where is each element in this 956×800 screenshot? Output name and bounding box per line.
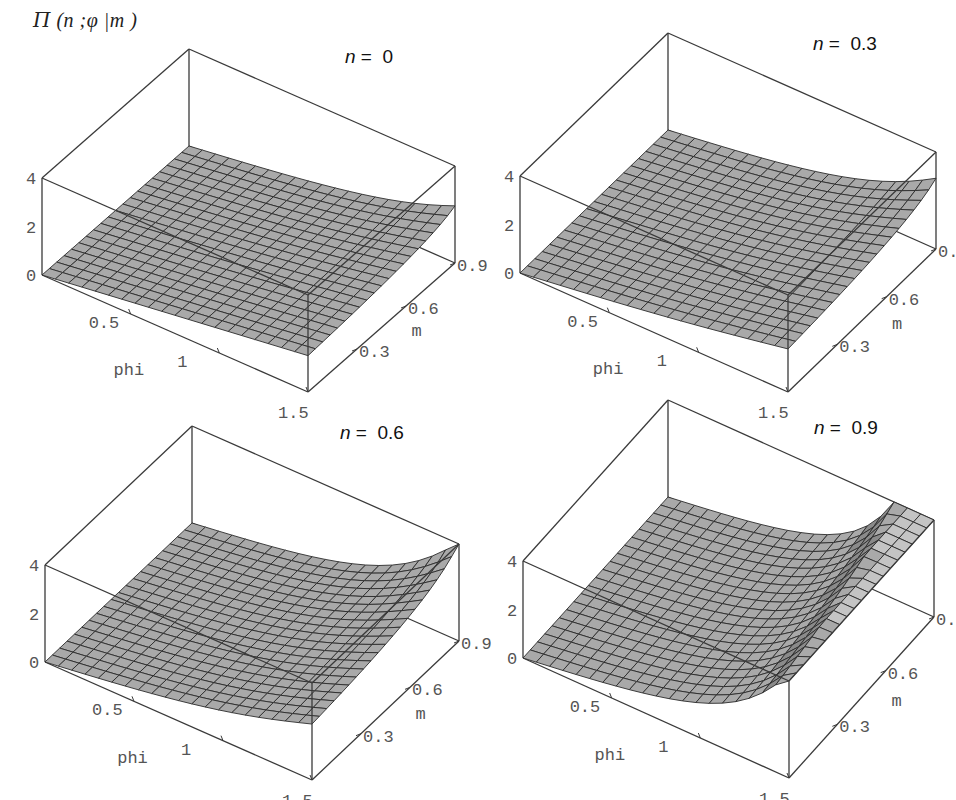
z-tick-label: 2 xyxy=(504,217,514,236)
y-axis-label: m xyxy=(892,315,902,334)
plot-canvas: 0240.511.50.30.60.9phim xyxy=(478,0,956,400)
x-tick-label: 0.5 xyxy=(570,698,601,717)
plot-canvas: 0240.511.50.30.60.9phim xyxy=(0,400,478,800)
z-tick-label: 4 xyxy=(26,170,36,189)
panel-label: n = 0.3 xyxy=(813,33,877,55)
y-tick-label: 0.9 xyxy=(938,243,956,262)
x-axis-label: phi xyxy=(117,749,148,768)
x-tick-label: 1 xyxy=(181,741,191,760)
x-tick-label: 1 xyxy=(177,353,187,372)
panel-label: n = 0.6 xyxy=(340,422,404,444)
surface-mesh xyxy=(523,497,934,703)
box-edge xyxy=(42,49,189,178)
surface-plot-n0: 0240.511.50.30.60.9phim n = 0 xyxy=(0,0,478,400)
y-axis-label: m xyxy=(416,705,426,724)
x-tick-label: 1 xyxy=(658,738,668,757)
x-tick-label: 0.5 xyxy=(567,313,598,332)
figure: Π (n ;φ |m ) 0240.511.50.30.60.9phim n =… xyxy=(0,0,956,800)
box-edge xyxy=(668,33,936,152)
y-tick-label: 0.6 xyxy=(412,681,443,700)
z-tick-label: 0 xyxy=(29,654,39,673)
panel-label: n = 0 xyxy=(345,46,393,68)
plot-canvas: 0240.511.50.30.60.9phim xyxy=(0,0,478,400)
y-tick-label: 0.6 xyxy=(888,665,919,684)
y-tick-label: 0.6 xyxy=(408,300,439,319)
y-tick-label: 0.6 xyxy=(889,291,920,310)
x-tick-label: 1.5 xyxy=(282,792,313,800)
x-axis-label: phi xyxy=(114,361,145,380)
x-tick-label: 1.5 xyxy=(759,790,790,800)
box-edge xyxy=(192,426,459,544)
x-axis-label: phi xyxy=(595,746,626,765)
x-axis-label: phi xyxy=(593,360,624,379)
y-tick-label: 0.9 xyxy=(936,611,956,630)
surface-mesh xyxy=(45,523,459,724)
z-tick-label: 2 xyxy=(26,219,36,238)
z-tick-label: 0 xyxy=(507,650,517,669)
y-tick-label: 0.3 xyxy=(839,718,870,737)
surface-plot-n03: 0240.511.50.30.60.9phim n = 0.3 xyxy=(478,0,956,400)
box-edge xyxy=(189,49,455,166)
y-tick-label: 0.3 xyxy=(839,338,870,357)
y-axis-label: m xyxy=(892,692,902,711)
z-tick-label: 2 xyxy=(29,606,39,625)
z-tick-label: 2 xyxy=(507,602,517,621)
x-tick-label: 1 xyxy=(657,352,667,371)
surface-plot-n06: 0240.511.50.30.60.9phim n = 0.6 xyxy=(0,400,478,800)
x-tick-label: 0.5 xyxy=(89,314,120,333)
y-axis-label: m xyxy=(412,322,422,341)
z-tick-label: 0 xyxy=(504,265,514,284)
surface-plot-n09: 0240.511.50.30.60.9phim n = 0.9 xyxy=(478,400,956,800)
z-tick-label: 4 xyxy=(507,553,517,572)
x-tick-label: 0.5 xyxy=(92,701,123,720)
y-tick-label: 0.3 xyxy=(359,343,390,362)
z-tick-label: 0 xyxy=(26,267,36,286)
y-tick-label: 0.3 xyxy=(363,728,394,747)
plot-canvas: 0240.511.50.30.60.9phim xyxy=(478,400,956,800)
z-tick-label: 4 xyxy=(29,557,39,576)
z-tick-label: 4 xyxy=(504,168,514,187)
panel-label: n = 0.9 xyxy=(814,417,878,439)
